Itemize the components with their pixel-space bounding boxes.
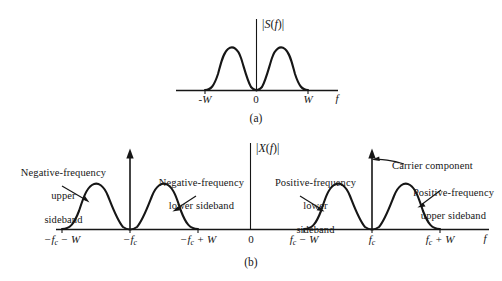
panel-b-caption: (b) xyxy=(234,256,268,269)
callout-neg-upper-line3: sideband xyxy=(44,214,82,225)
figure-container: |S(f)| -W 0 W f (a) |X(f)| Negative-freq… xyxy=(0,0,502,281)
callout-neg-upper-line2: upper xyxy=(51,190,75,201)
callout-pos-lower-line2: lower xyxy=(303,200,327,211)
panel-b-tick-label-neg-fc: −fc xyxy=(112,233,148,248)
panel-b-axis-label-magnitude: |X(f)| xyxy=(256,142,280,155)
callout-pos-lower-line1: Positive-frequency xyxy=(275,177,356,188)
carrier-impulse-negative-fc-arrowhead xyxy=(126,149,133,159)
callout-pos-upper-line1: Positive-frequency xyxy=(413,187,494,198)
callout-negative-lower-sideband: Negative-frequency lower sideband xyxy=(144,165,248,224)
panel-b-tick-label-neg-fc-minus-w: −fc − W xyxy=(26,233,98,248)
callout-positive-upper-sideband: Positive-frequency upper sideband xyxy=(396,175,500,234)
callout-negative-upper-sideband: Negative-frequency upper sideband xyxy=(6,155,110,237)
panel-a-tick-label-neg-w: -W xyxy=(193,93,217,105)
callout-carrier-line1: Carrier component xyxy=(392,160,473,171)
panel-b-tick-label-pos-fc-plus-w: fc + W xyxy=(408,233,472,248)
panel-a-axis-label-magnitude: |S(f)| xyxy=(262,18,284,31)
callout-neg-lower-line1: Negative-frequency xyxy=(159,177,244,188)
panel-b-tick-label-pos-fc-minus-w: fc − W xyxy=(272,233,336,248)
callout-neg-lower-line2: lower sideband xyxy=(169,200,234,211)
panel-b-tick-label-zero: 0 xyxy=(240,233,262,245)
callout-pos-upper-line2: upper sideband xyxy=(421,210,486,221)
panel-b-axis-label-frequency: f xyxy=(478,232,492,244)
panel-a-tick-label-zero: 0 xyxy=(245,93,267,105)
panel-b-tick-label-pos-fc: fc xyxy=(358,233,386,248)
panel-a-caption: (a) xyxy=(239,112,273,125)
panel-a-axis-label-frequency: f xyxy=(330,92,344,104)
panel-b-tick-label-neg-fc-plus-w: −fc + W xyxy=(162,233,234,248)
panel-a-graphics xyxy=(176,19,338,94)
callout-neg-upper-line1: Negative-frequency xyxy=(21,167,106,178)
panel-a-tick-label-pos-w: W xyxy=(298,93,318,105)
